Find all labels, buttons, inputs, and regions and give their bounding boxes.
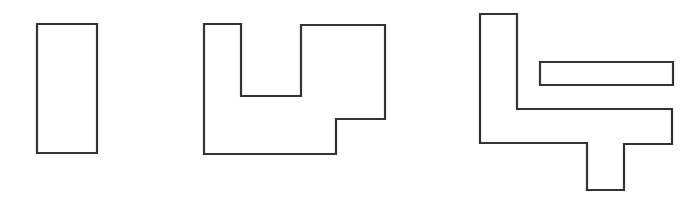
shapes-figure bbox=[0, 0, 700, 206]
rectangle-shape bbox=[37, 24, 97, 153]
l-t-shape bbox=[480, 14, 672, 190]
u-notched-shape bbox=[204, 24, 385, 154]
diagram-canvas bbox=[0, 0, 700, 206]
bar-shape bbox=[540, 62, 673, 85]
